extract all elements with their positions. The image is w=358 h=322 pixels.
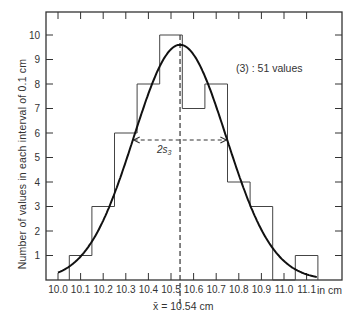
x-tick-labels: 10.010.110.210.310.410.510.610.710.810.9… xyxy=(48,284,316,295)
y-tick-labels: 12345678910 xyxy=(29,30,41,262)
svg-text:2: 2 xyxy=(34,226,40,237)
svg-text:1: 1 xyxy=(34,250,40,261)
x-axis-unit-label: in cm xyxy=(317,284,342,296)
histogram-chart: 12345678910 10.010.110.210.310.410.510.6… xyxy=(0,0,358,322)
svg-text:7: 7 xyxy=(34,103,40,114)
svg-text:8: 8 xyxy=(34,79,40,90)
svg-text:10.3: 10.3 xyxy=(116,284,136,295)
svg-text:10.8: 10.8 xyxy=(229,284,249,295)
svg-text:6: 6 xyxy=(34,128,40,139)
svg-text:10.4: 10.4 xyxy=(139,284,159,295)
normal-curve xyxy=(58,45,317,277)
svg-text:9: 9 xyxy=(34,54,40,65)
svg-text:10.9: 10.9 xyxy=(252,284,272,295)
svg-text:10.6: 10.6 xyxy=(184,284,204,295)
spread-label: 2s3 xyxy=(156,144,172,156)
svg-text:10: 10 xyxy=(29,30,41,41)
series-annotation: (3) : 51 values xyxy=(236,62,303,74)
svg-text:10.1: 10.1 xyxy=(71,284,91,295)
axis-ticks xyxy=(46,12,342,280)
svg-text:3: 3 xyxy=(34,201,40,212)
svg-text:10.2: 10.2 xyxy=(93,284,113,295)
svg-text:4: 4 xyxy=(34,177,40,188)
svg-text:11.1: 11.1 xyxy=(297,284,316,295)
svg-text:10.0: 10.0 xyxy=(48,284,68,295)
svg-text:10.7: 10.7 xyxy=(206,284,226,295)
y-axis-label: Number of values in each interval of 0.1… xyxy=(16,54,28,274)
mean-label: x̄ = 10.54 cm xyxy=(153,300,213,312)
plot-frame xyxy=(46,12,342,280)
svg-text:11.0: 11.0 xyxy=(275,284,294,295)
svg-text:5: 5 xyxy=(34,152,40,163)
svg-text:10.5: 10.5 xyxy=(161,284,181,295)
